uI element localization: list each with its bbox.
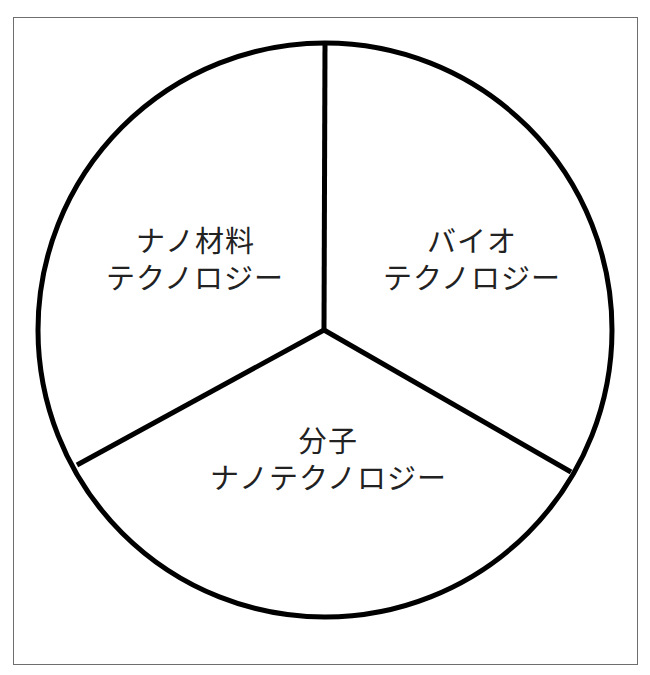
sector-label-bio: バイオ テクノロジー — [372, 224, 572, 298]
divider-top — [324, 43, 325, 330]
label-line1: 分子 — [178, 424, 478, 461]
label-line2: ナノテクノロジー — [178, 461, 478, 498]
three-sector-circle — [0, 0, 650, 675]
label-line2: テクノロジー — [95, 261, 295, 298]
sector-label-nano-materials: ナノ材料 テクノロジー — [95, 224, 295, 298]
label-line1: ナノ材料 — [95, 224, 295, 261]
label-line1: バイオ — [372, 224, 572, 261]
sector-label-molecular: 分子 ナノテクノロジー — [178, 424, 478, 498]
label-line2: テクノロジー — [372, 261, 572, 298]
